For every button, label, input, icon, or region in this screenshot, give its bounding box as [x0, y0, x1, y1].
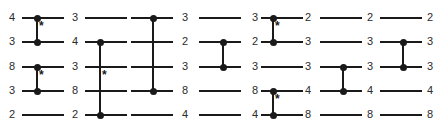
wire-segment — [380, 90, 422, 92]
sorting-network-diagram: 43832**34382*323843238423348**2334823348 — [0, 0, 441, 133]
value-label: 8 — [424, 109, 436, 120]
value-label: 3 — [424, 36, 436, 47]
network-stage: 23348 — [0, 0, 441, 133]
wire-segment — [380, 17, 422, 19]
comparator-node — [400, 39, 407, 46]
value-label: 2 — [424, 12, 436, 23]
value-label: 4 — [424, 85, 436, 96]
wire-segment — [380, 114, 422, 116]
comparator-node — [400, 64, 407, 71]
value-label: 3 — [424, 61, 436, 72]
